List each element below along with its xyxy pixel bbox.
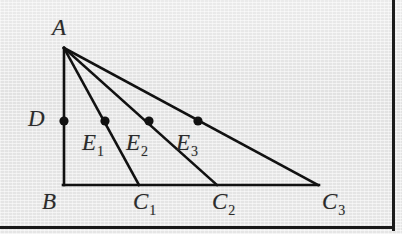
label-point-D: D — [28, 107, 45, 130]
label-point-B-text: B — [42, 189, 56, 214]
figure-page: A B D C1 C2 C3 E1 E2 E3 — [0, 0, 402, 234]
label-point-A-text: A — [52, 15, 66, 40]
point-D-dot — [59, 116, 68, 125]
label-point-E3-text: E — [176, 130, 190, 155]
label-point-E2-subscript: 2 — [141, 144, 148, 159]
label-point-D-text: D — [28, 106, 45, 131]
page-border-right — [392, 0, 395, 231]
page-border-bottom — [0, 226, 395, 229]
label-point-E3: E3 — [176, 131, 197, 154]
label-point-C3-text: C — [322, 189, 337, 214]
label-point-E2: E2 — [126, 131, 147, 154]
label-point-C3-subscript: 3 — [338, 203, 345, 218]
label-point-E1-text: E — [82, 130, 96, 155]
label-point-C1-text: C — [133, 189, 148, 214]
label-point-E1-subscript: 1 — [97, 144, 104, 159]
marked-point-group — [59, 116, 202, 125]
label-point-B: B — [42, 190, 56, 213]
label-point-C2-text: C — [212, 189, 227, 214]
cevian-AC2-line — [64, 48, 217, 185]
segment-group — [63, 48, 319, 185]
label-point-C2: C2 — [212, 190, 234, 213]
label-point-E2-text: E — [126, 130, 140, 155]
label-point-C1-subscript: 1 — [149, 203, 156, 218]
point-E1-dot — [100, 116, 109, 125]
label-point-E3-subscript: 3 — [191, 144, 198, 159]
point-E3-dot — [193, 116, 202, 125]
label-point-E1: E1 — [82, 131, 103, 154]
label-point-A: A — [52, 16, 66, 39]
point-E2-dot — [144, 116, 153, 125]
label-point-C2-subscript: 2 — [228, 203, 235, 218]
label-point-C1: C1 — [133, 190, 155, 213]
label-point-C3: C3 — [322, 190, 344, 213]
